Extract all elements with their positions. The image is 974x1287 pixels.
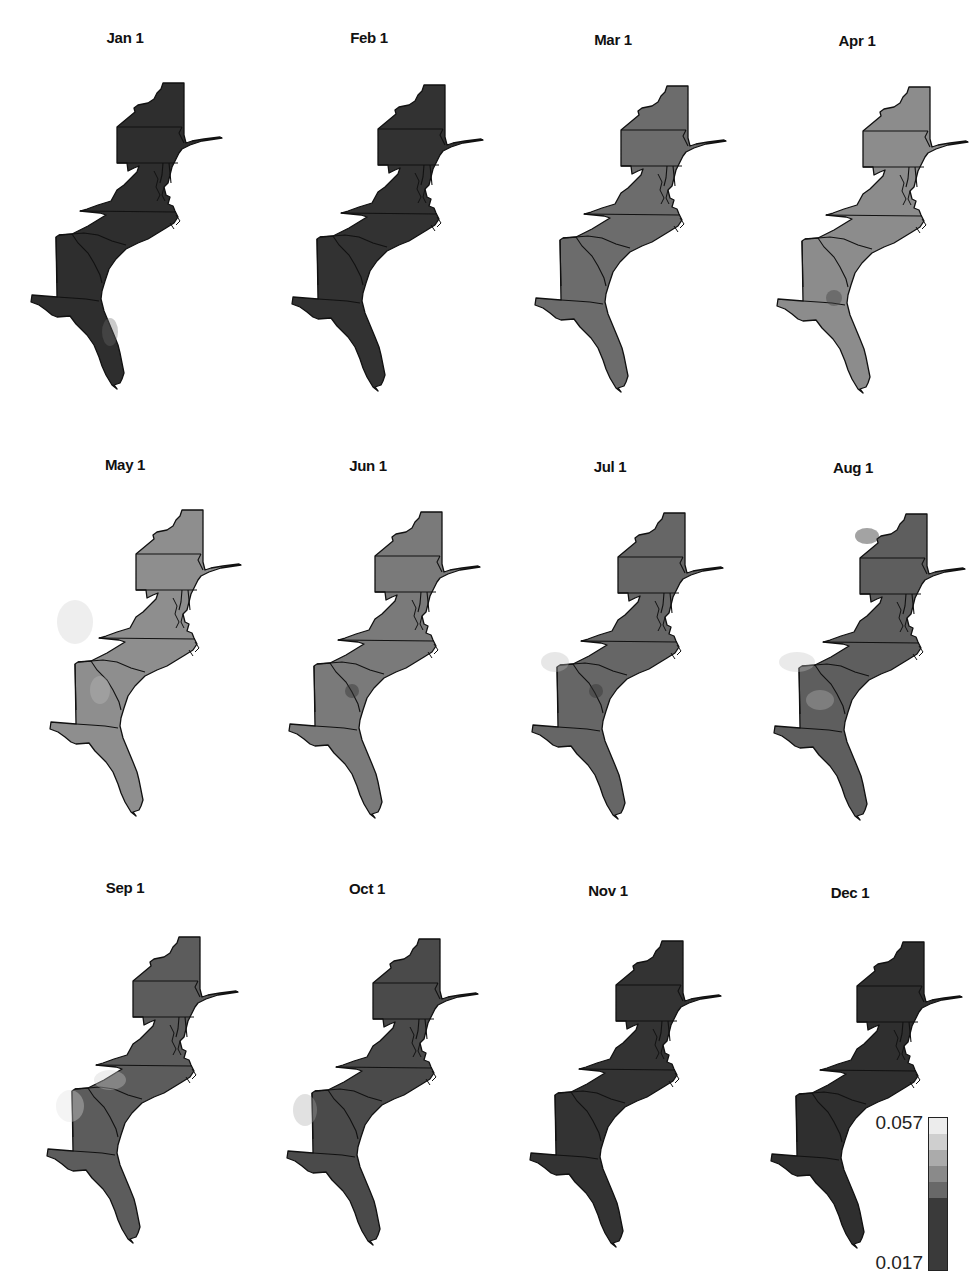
colorbar-band-6 <box>929 1198 947 1270</box>
map-nov <box>530 941 721 1247</box>
map-oct <box>287 939 478 1245</box>
colorbar-band-1 <box>929 1118 947 1134</box>
map-sep <box>47 937 238 1243</box>
colorbar-band-2 <box>929 1134 947 1150</box>
map-jun <box>289 512 480 818</box>
colorbar-band-5 <box>929 1182 947 1198</box>
map-apr <box>777 87 968 393</box>
map-mar <box>535 86 726 392</box>
colorbar-min-label: 0.017 <box>853 1252 923 1274</box>
map-may <box>50 510 241 816</box>
colorbar <box>928 1117 948 1271</box>
map-feb <box>292 85 483 391</box>
colorbar-band-4 <box>929 1166 947 1182</box>
colorbar-max-label: 0.057 <box>853 1112 923 1134</box>
map-jan <box>31 83 222 389</box>
colorbar-band-3 <box>929 1150 947 1166</box>
map-grid <box>0 0 974 1287</box>
